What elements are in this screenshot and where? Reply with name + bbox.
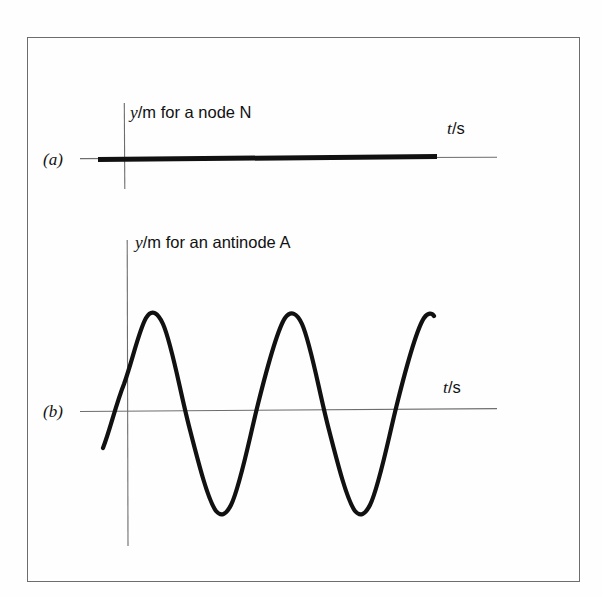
panel-b-t-label-rest: /s xyxy=(448,378,461,396)
figure-root: (a) y/m for a node N t/s (b) y/m for an … xyxy=(0,0,602,597)
panel-b-t-axis-label: t/s xyxy=(443,377,461,398)
panel-a-y-caption-rest: /m for a node N xyxy=(138,103,252,121)
panel-a-t-label-rest: /s xyxy=(452,119,465,137)
figure-border-box xyxy=(27,37,580,582)
panel-label-b: (b) xyxy=(43,402,63,422)
panel-label-a: (a) xyxy=(43,150,63,170)
panel-a-y-symbol: y xyxy=(130,102,138,122)
panel-a-t-axis-label: t/s xyxy=(447,118,465,139)
panel-b-y-caption-rest: /m for an antinode A xyxy=(143,233,291,251)
panel-b-y-axis-caption: y/m for an antinode A xyxy=(135,232,290,253)
panel-b-y-symbol: y xyxy=(135,232,143,252)
panel-a-y-axis-caption: y/m for a node N xyxy=(130,102,252,123)
